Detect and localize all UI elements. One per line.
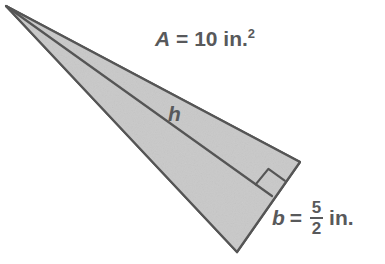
base-denominator: 2	[311, 219, 322, 237]
area-unit: in.	[223, 27, 248, 50]
base-unit: in.	[329, 207, 354, 228]
height-label: h	[168, 103, 181, 124]
base-fraction: 5 2	[310, 199, 323, 237]
area-exponent: 2	[248, 26, 255, 41]
base-numerator: 5	[311, 199, 322, 217]
area-variable: A	[155, 27, 170, 50]
area-equals: =	[176, 27, 188, 50]
base-equals: =	[290, 207, 302, 228]
area-label: A = 10 in.2	[155, 27, 255, 49]
triangle-texture-overlay	[6, 6, 300, 252]
area-value: 10	[194, 27, 217, 50]
base-label: b = 5 2 in.	[272, 198, 354, 236]
base-variable: b	[272, 207, 285, 228]
